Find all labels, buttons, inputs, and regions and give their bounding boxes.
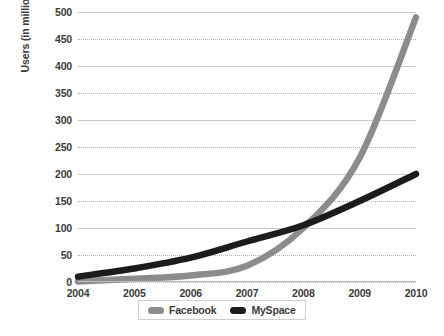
y-tick-label: 350 (38, 88, 72, 98)
legend-item-myspace[interactable]: MySpace (230, 304, 295, 316)
legend-label: MySpace (251, 304, 295, 316)
y-tick-label: 150 (38, 196, 72, 206)
legend-swatch-icon (148, 307, 164, 314)
x-tick-label: 2007 (223, 286, 271, 300)
chart-container: Users (in millions) 05010015020025030035… (0, 0, 444, 336)
x-tick-label: 2010 (392, 286, 440, 300)
x-tick-label: 2005 (110, 286, 158, 300)
y-tick-label: 200 (38, 169, 72, 179)
series-line-myspace (78, 174, 416, 277)
y-tick-label: 450 (38, 34, 72, 44)
y-tick-label: 400 (38, 61, 72, 71)
chart-legend: FacebookMySpace (138, 300, 306, 320)
y-tick-label: 50 (38, 250, 72, 260)
x-tick-label: 2008 (279, 286, 327, 300)
x-tick-label: 2009 (336, 286, 384, 300)
x-tick-label: 2006 (167, 286, 215, 300)
y-axis-tick-labels: 050100150200250300350400450500 (34, 12, 72, 282)
y-tick-label: 500 (38, 7, 72, 17)
x-axis-line (78, 281, 416, 282)
y-tick-label: 100 (38, 223, 72, 233)
legend-item-facebook[interactable]: Facebook (148, 304, 216, 316)
legend-label: Facebook (169, 304, 216, 316)
y-axis-title: Users (in millions) (16, 0, 34, 178)
legend-swatch-icon (230, 307, 246, 314)
plot-area (78, 12, 416, 282)
y-tick-label: 300 (38, 115, 72, 125)
x-tick-label: 2004 (54, 286, 102, 300)
series-curves (78, 12, 416, 282)
y-tick-label: 250 (38, 142, 72, 152)
